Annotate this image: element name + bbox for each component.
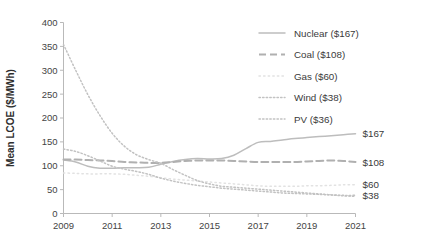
y-tick-label: 400 xyxy=(42,17,58,28)
end-value-labels: $167$108$60$38 xyxy=(363,128,385,201)
legend-label-coal: Coal ($108) xyxy=(294,49,345,60)
legend-label-wind: Wind ($38) xyxy=(294,92,342,103)
y-tick-label: 50 xyxy=(47,184,58,195)
lcoe-line-chart: Mean LCOE ($/MWh) 0501001502002503003504… xyxy=(0,0,424,250)
x-tick-label: 2011 xyxy=(102,220,122,231)
y-tick-label: 150 xyxy=(42,136,58,147)
series-line-nuclear xyxy=(64,134,356,169)
y-tick-label: 0 xyxy=(52,208,57,219)
x-tick-label: 2015 xyxy=(199,220,220,231)
y-tick-label: 300 xyxy=(42,65,58,76)
chart-legend: Nuclear ($167)Coal ($108)Gas ($60)Wind (… xyxy=(259,28,359,125)
end-label-108: $108 xyxy=(363,157,385,168)
end-label-60: $60 xyxy=(363,179,380,190)
chart-canvas: Mean LCOE ($/MWh) 0501001502002503003504… xyxy=(0,0,424,250)
x-tick-label: 2019 xyxy=(296,220,317,231)
legend-label-gas: Gas ($60) xyxy=(294,71,338,82)
y-axis-ticks: 050100150200250300350400 xyxy=(42,17,64,219)
x-axis-ticks: 2009201120132015201720192021 xyxy=(53,214,366,231)
y-tick-label: 100 xyxy=(42,160,58,171)
end-label-167: $167 xyxy=(363,128,385,139)
legend-label-pv: PV ($36) xyxy=(294,114,333,125)
end-label-38: $38 xyxy=(363,190,380,201)
y-tick-label: 200 xyxy=(42,112,58,123)
series-line-coal xyxy=(64,160,356,163)
y-axis-title: Mean LCOE ($/MWh) xyxy=(5,69,16,167)
y-tick-label: 350 xyxy=(42,41,58,52)
x-tick-label: 2017 xyxy=(248,220,269,231)
x-tick-label: 2021 xyxy=(345,220,366,231)
y-tick-label: 250 xyxy=(42,89,58,100)
x-tick-label: 2013 xyxy=(150,220,171,231)
x-tick-label: 2009 xyxy=(53,220,74,231)
series-line-wind xyxy=(64,149,356,195)
legend-label-nuclear: Nuclear ($167) xyxy=(294,28,359,39)
